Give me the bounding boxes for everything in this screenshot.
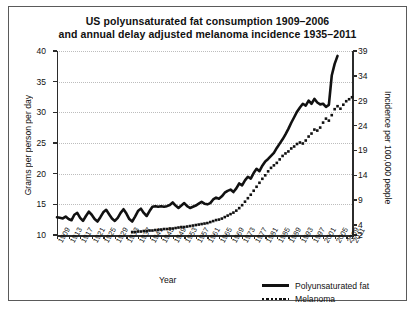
plot-area: 1015202530354024914192429343919091913191… [57,51,352,235]
y-axis-right-line [352,51,354,235]
y-tick-right [353,125,358,127]
y-tick-label-left: 40 [37,46,46,56]
y-tick-right [353,75,358,77]
legend-item-polyunsaturated-fat: Polyunsaturated fat [262,279,369,292]
y-tick-label-left: 25 [37,138,46,148]
legend-label-polyunsaturated-fat: Polyunsaturated fat [295,281,369,291]
y-tick-label-right: 24 [358,120,367,130]
y-axis-right-label: Incidence per 100,000 people [383,91,393,204]
y-tick-right [353,199,358,201]
chart-legend: Polyunsaturated fat Melanoma [262,279,369,305]
legend-dotted-line-icon [262,292,289,305]
x-axis-label: Year [159,275,176,285]
y-tick-label-left: 35 [37,76,46,86]
series-polyunsaturated-fat [57,56,338,222]
y-tick-label-right: 9 [358,195,363,205]
chart-title-line-1: US polyunsaturated fat consumption 1909–… [9,15,406,28]
series-melanoma [131,96,353,233]
y-tick-right [353,175,358,177]
legend-solid-line-icon [262,279,289,292]
y-tick-left [53,142,58,144]
y-tick-label-left: 30 [37,107,46,117]
y-tick-label-right: 39 [358,46,367,56]
y-tick-right [353,50,358,52]
y-tick-left [53,204,58,206]
chart-figure: US polyunsaturated fat consumption 1909–… [8,6,407,301]
y-tick-left [53,50,58,52]
legend-item-melanoma: Melanoma [262,292,369,305]
y-tick-label-left: 10 [37,230,46,240]
y-tick-label-right: 19 [358,145,367,155]
y-tick-label-right: 29 [358,95,367,105]
y-tick-left [53,112,58,114]
y-axis-left-label: Grams per person per day [23,95,33,195]
chart-title: US polyunsaturated fat consumption 1909–… [9,15,406,41]
y-tick-label-right: 14 [358,170,367,180]
y-tick-left [53,173,58,175]
y-tick-left [53,81,58,83]
y-tick-right [353,150,358,152]
y-tick-right [353,100,358,102]
legend-label-melanoma: Melanoma [295,294,335,304]
y-tick-label-left: 15 [37,199,46,209]
y-tick-label-left: 20 [37,168,46,178]
chart-title-line-2: and annual delay adjusted melanoma incid… [9,28,406,41]
y-tick-label-right: 34 [358,70,367,80]
series-layer [57,51,352,235]
